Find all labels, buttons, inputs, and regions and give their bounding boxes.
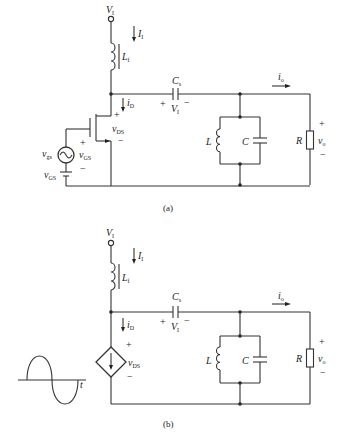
- svg-text:+: +: [319, 336, 325, 347]
- svg-text:−: −: [320, 149, 326, 160]
- svg-text:vgs: vgs: [42, 148, 52, 160]
- sine-waveform-icon: t: [18, 356, 86, 404]
- svg-text:io: io: [278, 290, 284, 302]
- choke-label-a: Lf: [121, 51, 130, 63]
- svg-text:Cs: Cs: [172, 75, 182, 87]
- figure-b: VI II Lf Cs + VI − io: [18, 227, 326, 429]
- svg-text:L: L: [205, 136, 212, 147]
- svg-text:t: t: [80, 379, 83, 390]
- svg-text:−: −: [127, 371, 133, 382]
- drain-current-arrow-b: iD: [121, 318, 135, 332]
- tank-inductor-icon: [217, 347, 221, 370]
- ac-source-icon: [58, 147, 74, 163]
- svg-text:Cs: Cs: [172, 291, 182, 303]
- lc-tank-b: L C: [205, 310, 267, 406]
- svg-text:vGS: vGS: [44, 169, 56, 181]
- supply-current-arrow-a: II: [132, 26, 143, 42]
- circuit-diagram: VI II Lf Cs + VI − io: [0, 0, 342, 442]
- svg-text:vo: vo: [318, 135, 325, 147]
- svg-text:Lf: Lf: [121, 272, 130, 284]
- svg-text:+: +: [319, 118, 325, 129]
- supply-current-arrow-b: II: [132, 248, 143, 264]
- output-current-arrow-b: io: [272, 290, 291, 306]
- svg-text:L: L: [205, 355, 212, 366]
- svg-text:io: io: [278, 71, 284, 83]
- svg-text:II: II: [137, 28, 143, 40]
- tank-inductor-icon: [217, 129, 221, 152]
- svg-text:−: −: [80, 163, 86, 174]
- svg-text:VI: VI: [171, 103, 179, 115]
- svg-text:R: R: [295, 135, 302, 146]
- supply-label-a: VI: [106, 4, 114, 16]
- svg-text:vDS: vDS: [112, 123, 124, 135]
- svg-text:vGS: vGS: [79, 149, 91, 161]
- svg-text:−: −: [320, 367, 326, 378]
- figure-a-caption: (a): [163, 203, 173, 213]
- svg-text:iD: iD: [127, 97, 135, 109]
- resistor-icon: [307, 131, 314, 149]
- svg-text:+: +: [80, 137, 86, 148]
- svg-text:VI: VI: [171, 321, 179, 333]
- supply-terminal-icon: [108, 16, 113, 21]
- svg-text:+: +: [160, 316, 166, 327]
- svg-text:R: R: [295, 353, 302, 364]
- drain-current-arrow-a: iD: [121, 97, 135, 112]
- lc-tank-a: L C: [205, 92, 267, 187]
- svg-text:C: C: [242, 136, 249, 147]
- output-current-arrow-a: io: [272, 71, 291, 88]
- svg-text:vDS: vDS: [128, 357, 140, 369]
- bias-battery-icon: [60, 172, 72, 186]
- coupling-capacitor-a: Cs + VI −: [160, 75, 190, 115]
- svg-text:vo: vo: [318, 353, 325, 365]
- resistor-icon: [307, 349, 314, 367]
- svg-text:−: −: [184, 315, 190, 326]
- load-resistor-b: R + vo −: [295, 312, 326, 404]
- svg-text:C: C: [242, 355, 249, 366]
- svg-text:+: +: [126, 339, 132, 350]
- svg-text:iD: iD: [127, 319, 135, 331]
- svg-text:+: +: [114, 109, 120, 120]
- svg-text:−: −: [118, 135, 124, 146]
- choke-inductor-icon: [111, 43, 115, 70]
- load-resistor-a: R + vo −: [295, 94, 326, 185]
- figure-b-caption: (b): [163, 419, 174, 429]
- svg-text:II: II: [137, 250, 143, 262]
- supply-terminal-icon: [108, 240, 113, 245]
- svg-text:−: −: [184, 97, 190, 108]
- svg-text:+: +: [160, 98, 166, 109]
- choke-inductor-icon: [111, 263, 115, 290]
- svg-text:VI: VI: [106, 227, 114, 239]
- figure-a: VI II Lf Cs + VI − io: [42, 4, 326, 213]
- dependent-current-source-icon: [96, 347, 126, 377]
